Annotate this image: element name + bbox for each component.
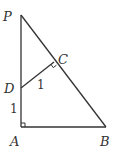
segment-PB <box>21 15 106 127</box>
length-label-DC: 1 <box>37 78 45 92</box>
label-A: A <box>9 134 19 149</box>
right-angle-marker-C <box>51 64 57 67</box>
geometry-diagram: P C D A B 1 1 <box>0 0 117 151</box>
label-B: B <box>99 134 110 149</box>
label-P: P <box>2 9 12 24</box>
label-D: D <box>3 81 15 96</box>
label-C: C <box>58 52 68 67</box>
length-label-DA: 1 <box>10 102 18 116</box>
